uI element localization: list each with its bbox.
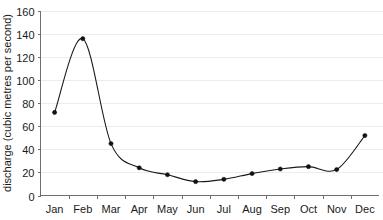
y-tick-label: 120 [16,52,34,64]
data-point-may [165,173,169,177]
y-tick-label: 60 [22,121,34,133]
x-tick-label-jan: Jan [46,203,64,215]
discharge-line-chart: 020406080100120140160 JanFebMarAprMayJun… [0,0,383,220]
x-tick-label-jun: Jun [187,203,205,215]
data-point-dec [363,133,367,137]
x-tick-label-oct: Oct [300,203,317,215]
y-tick-label: 160 [16,6,34,18]
y-tick-label: 80 [22,98,34,110]
data-point-mar [109,142,113,146]
x-tick-label-apr: Apr [131,203,148,215]
data-point-sep [278,167,282,171]
y-tick-label: 40 [22,144,34,156]
data-point-nov [335,167,339,171]
x-tick-label-sep: Sep [270,203,290,215]
x-tick-label-jul: Jul [217,203,231,215]
y-tick-label: 0 [28,191,34,203]
y-axis-title: discharge (cubic metres per second) [1,14,13,192]
data-point-jun [194,180,198,184]
data-point-feb [81,37,85,41]
x-tick-label-may: May [157,203,178,215]
data-point-jan [53,110,57,114]
x-tick-label-dec: Dec [355,203,375,215]
data-point-oct [306,165,310,169]
chart-canvas: 020406080100120140160 JanFebMarAprMayJun… [0,0,383,220]
x-tick-label-mar: Mar [102,203,121,215]
y-tick-label: 140 [16,29,34,41]
chart-background [0,0,383,220]
data-point-jul [222,177,226,181]
data-point-aug [250,171,254,175]
data-point-apr [137,166,141,170]
y-tick-label: 100 [16,75,34,87]
y-tick-label: 20 [22,167,34,179]
x-tick-label-aug: Aug [242,203,262,215]
x-tick-label-nov: Nov [327,203,347,215]
x-tick-label-feb: Feb [73,203,92,215]
